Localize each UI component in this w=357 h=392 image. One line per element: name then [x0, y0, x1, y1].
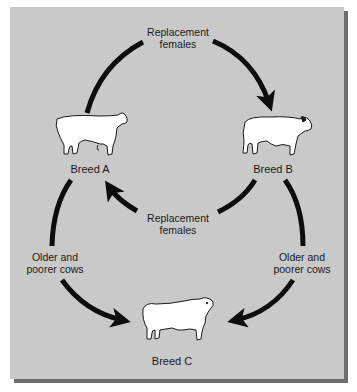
- node-label-breed-c: Breed C: [142, 355, 202, 367]
- arrow-a-to-b-head: [213, 41, 269, 103]
- arrow-a-to-b-tail: [87, 42, 143, 113]
- arrow-b-to-c-tail: [285, 180, 303, 246]
- edge-label-b-to-a: Replacement females: [141, 212, 215, 236]
- edge-label-line2: females: [141, 224, 215, 236]
- breed-b-bull-icon: [243, 117, 312, 155]
- arrow-a-to-c-tail: [52, 180, 71, 246]
- arrow-b-to-a-tail: [218, 180, 255, 212]
- edge-label-line2: poorer cows: [20, 263, 90, 275]
- edge-label-line2: females: [141, 38, 215, 50]
- diagram-canvas: [0, 0, 357, 392]
- arrow-b-to-c-head: [236, 280, 293, 320]
- edge-label-a-to-b: Replacement females: [141, 26, 215, 50]
- edge-label-line1: Replacement: [141, 212, 215, 224]
- edge-label-line2: poorer cows: [267, 263, 337, 275]
- breed-a-cow-icon: [56, 113, 127, 155]
- edge-label-line1: Replacement: [141, 26, 215, 38]
- arrow-a-to-c-head: [62, 280, 122, 320]
- edge-label-a-to-c: Older and poorer cows: [20, 251, 90, 275]
- edge-label-line1: Older and: [267, 251, 337, 263]
- breed-c-bull-icon: [143, 298, 213, 340]
- node-label-breed-a: Breed A: [60, 163, 120, 175]
- arrow-b-to-a-head: [110, 188, 137, 211]
- edge-label-b-to-c: Older and poorer cows: [267, 251, 337, 275]
- edge-label-line1: Older and: [20, 251, 90, 263]
- node-label-breed-b: Breed B: [243, 163, 303, 175]
